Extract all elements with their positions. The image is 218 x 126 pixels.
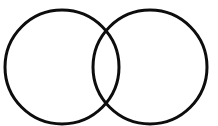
venn-diagram	[0, 0, 218, 126]
diagram-canvas	[0, 0, 218, 126]
